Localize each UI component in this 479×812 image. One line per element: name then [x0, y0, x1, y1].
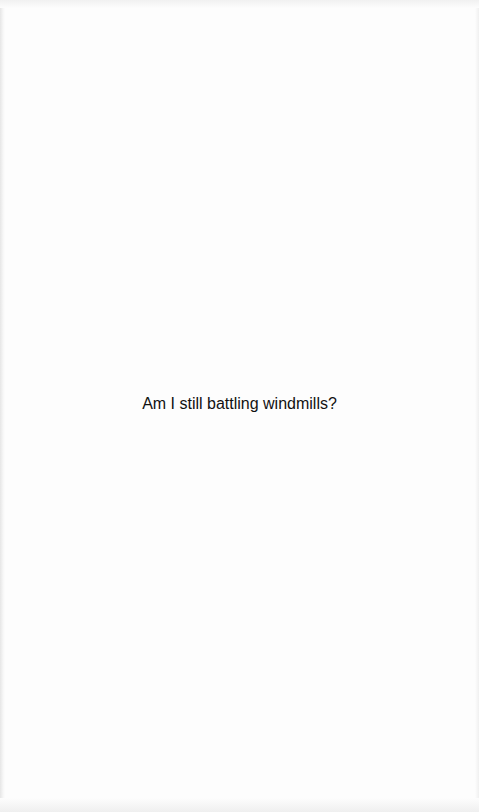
top-edge-shadow	[0, 0, 479, 8]
centered-message-text: Am I still battling windmills?	[0, 394, 479, 414]
page-canvas: Am I still battling windmills?	[0, 0, 479, 812]
bottom-edge-shadow	[0, 798, 479, 812]
